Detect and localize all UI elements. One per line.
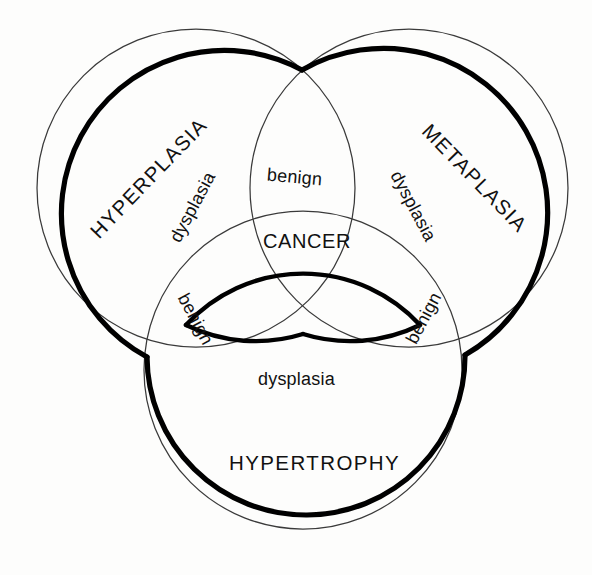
- label-region-dysplasia-bottom: dysplasia: [258, 370, 335, 388]
- venn-diagram-canvas: [0, 0, 592, 575]
- venn-diagram-figure: HYPERPLASIA METAPLASIA HYPERTROPHY CANCE…: [0, 0, 592, 575]
- label-region-cancer: CANCER: [263, 231, 351, 251]
- label-set-hypertrophy: HYPERTROPHY: [229, 453, 400, 474]
- label-region-benign-top: benign: [266, 166, 323, 189]
- bold-arc-cancer-right: [303, 325, 420, 341]
- bold-arc-cancer-top: [186, 274, 420, 325]
